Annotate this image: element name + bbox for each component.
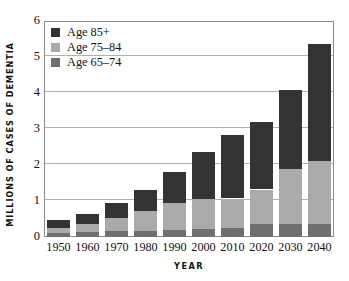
bar-segment[interactable] (47, 228, 69, 234)
legend: Age 85+Age 75–84Age 65–74 (48, 23, 125, 72)
bar-segment[interactable] (163, 172, 185, 203)
bar-segment[interactable] (76, 224, 98, 232)
legend-item[interactable]: Age 75–84 (51, 40, 121, 54)
bar-segment[interactable] (308, 224, 330, 237)
bar-segment[interactable] (134, 211, 156, 230)
y-axis-tick-label: 5 (26, 49, 40, 64)
bar-segment[interactable] (163, 230, 185, 237)
legend-item[interactable]: Age 85+ (51, 25, 121, 39)
bar-segment[interactable] (134, 231, 156, 237)
bar-group[interactable] (279, 21, 301, 237)
y-axis-tick-label: 3 (26, 121, 40, 136)
legend-label: Age 85+ (67, 25, 110, 40)
bar-segment[interactable] (47, 233, 69, 237)
legend-item[interactable]: Age 65–74 (51, 55, 121, 69)
bar-group[interactable] (192, 21, 214, 237)
y-axis-tick-label: 1 (26, 193, 40, 208)
bar-segment[interactable] (105, 203, 127, 218)
bar-segment[interactable] (279, 169, 301, 224)
bar-segment[interactable] (192, 199, 214, 229)
bar-segment[interactable] (76, 214, 98, 224)
x-axis-tick-label: 2040 (298, 240, 342, 255)
bar-segment[interactable] (192, 229, 214, 237)
bar-segment[interactable] (250, 224, 272, 237)
bar-segment[interactable] (279, 224, 301, 237)
bar-segment[interactable] (250, 122, 272, 190)
bar-segment[interactable] (105, 218, 127, 231)
bar-segment[interactable] (279, 90, 301, 169)
bar-segment[interactable] (221, 199, 243, 229)
bar-group[interactable] (134, 21, 156, 237)
bar-group[interactable] (250, 21, 272, 237)
dementia-cases-bar-chart: MILLIONS OF CASES OF DEMENTIA 0123456 19… (0, 0, 349, 281)
bar-group[interactable] (308, 21, 330, 237)
y-axis-title: MILLIONS OF CASES OF DEMENTIA (2, 16, 18, 253)
bar-segment[interactable] (163, 203, 185, 230)
legend-swatch-icon (51, 43, 60, 52)
bar-group[interactable] (221, 21, 243, 237)
y-axis-tick-label: 6 (26, 13, 40, 28)
bar-segment[interactable] (221, 135, 243, 198)
bar-segment[interactable] (221, 228, 243, 237)
bar-segment[interactable] (105, 231, 127, 237)
legend-swatch-icon (51, 58, 60, 67)
bar-segment[interactable] (47, 220, 69, 227)
legend-swatch-icon (51, 28, 60, 37)
bar-segment[interactable] (134, 190, 156, 212)
bar-group[interactable] (163, 21, 185, 237)
bar-segment[interactable] (308, 161, 330, 224)
x-axis-title: YEAR (44, 261, 334, 271)
bar-segment[interactable] (250, 190, 272, 225)
bar-segment[interactable] (192, 152, 214, 199)
bar-segment[interactable] (76, 232, 98, 237)
y-axis-tick-label: 2 (26, 157, 40, 172)
legend-label: Age 75–84 (67, 40, 121, 55)
legend-label: Age 65–74 (67, 55, 121, 70)
y-axis-tick-label: 4 (26, 85, 40, 100)
bar-segment[interactable] (308, 44, 330, 161)
